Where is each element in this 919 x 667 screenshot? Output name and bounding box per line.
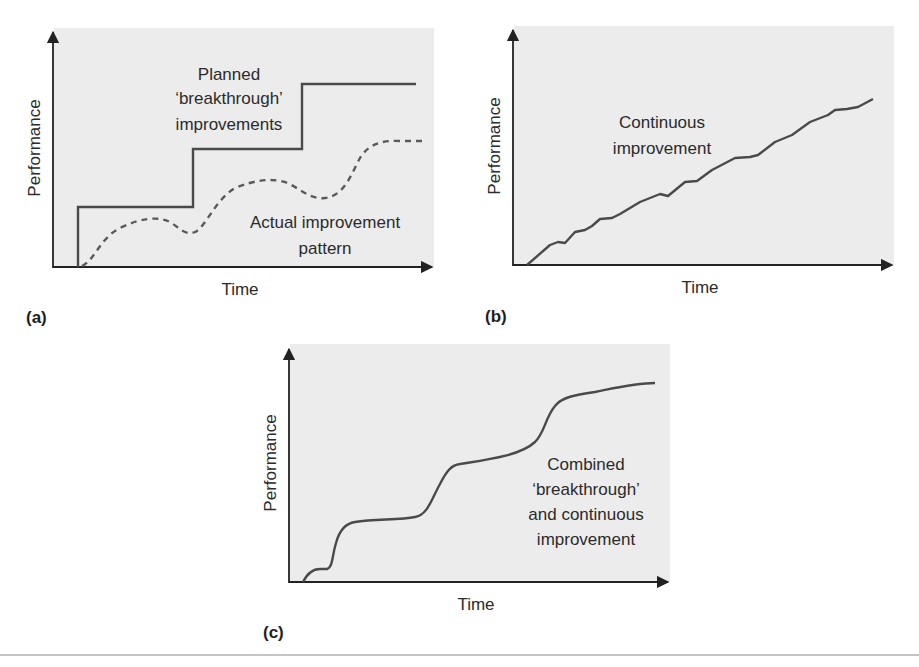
actual-label-2: pattern (299, 239, 352, 258)
x-axis-label-b: Time (681, 278, 718, 297)
actual-label-1: Actual improvement (250, 213, 401, 232)
combined-label-4: improvement (537, 530, 636, 549)
x-axis-label-c: Time (457, 595, 494, 614)
panel-letter-a: (a) (26, 308, 47, 327)
combined-label-2: ‘breakthrough’ (532, 480, 640, 499)
y-axis-label-a: Performance (25, 99, 44, 196)
panel-letter-c: (c) (263, 623, 284, 642)
combined-label-3: and continuous (528, 505, 643, 524)
panel-letter-b: (b) (485, 307, 507, 326)
planned-label-3: improvements (176, 115, 283, 134)
y-axis-label-c: Performance (261, 414, 280, 511)
panel-c: Combined ‘breakthrough’ and continuous i… (261, 344, 670, 642)
panel-b: Continuous improvement Time Performance … (485, 26, 894, 326)
x-axis-label-a: Time (221, 280, 258, 299)
planned-label-1: Planned (198, 65, 260, 84)
continuous-label-1: Continuous (619, 113, 705, 132)
planned-label-2: ‘breakthrough’ (175, 89, 283, 108)
continuous-label-2: improvement (613, 139, 712, 158)
improvement-figure: Planned ‘breakthrough’ improvements Actu… (0, 0, 919, 667)
y-axis-label-b: Performance (485, 97, 504, 194)
combined-label-1: Combined (547, 455, 625, 474)
panel-a: Planned ‘breakthrough’ improvements Actu… (25, 28, 434, 327)
